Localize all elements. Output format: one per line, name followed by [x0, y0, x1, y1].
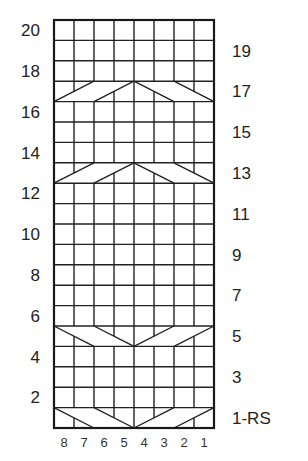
- column-label-8: 8: [60, 435, 67, 450]
- column-labels: 87654321: [60, 435, 207, 450]
- column-label-5: 5: [120, 435, 127, 450]
- row-label-15: 15: [232, 123, 251, 142]
- column-label-7: 7: [80, 435, 87, 450]
- row-label-6: 6: [31, 307, 40, 326]
- row-label-12: 12: [21, 184, 40, 203]
- row-label-14: 14: [21, 144, 40, 163]
- row-label-11: 11: [232, 205, 250, 224]
- column-label-3: 3: [160, 435, 167, 450]
- row-label-5: 5: [232, 327, 241, 346]
- row-label-10: 10: [21, 225, 40, 244]
- row-label-4: 4: [31, 348, 40, 367]
- knitting-chart: 2018161412108642 191715131197531-RS 8765…: [0, 0, 308, 461]
- row-label-19: 19: [232, 42, 251, 61]
- right-row-labels: 191715131197531-RS: [232, 42, 271, 428]
- row-label-2: 2: [31, 388, 40, 407]
- row-label-17: 17: [232, 82, 251, 101]
- column-label-6: 6: [100, 435, 107, 450]
- row-label-1: 1-RS: [232, 409, 271, 428]
- row-label-16: 16: [21, 103, 40, 122]
- chart-grid: [54, 20, 214, 408]
- column-label-4: 4: [140, 435, 147, 450]
- row-label-3: 3: [232, 368, 241, 387]
- row-label-20: 20: [21, 21, 40, 40]
- row-label-13: 13: [232, 164, 251, 183]
- column-label-1: 1: [200, 435, 207, 450]
- row-label-9: 9: [232, 246, 241, 265]
- row-label-18: 18: [21, 62, 40, 81]
- left-row-labels: 2018161412108642: [21, 21, 40, 407]
- row-label-8: 8: [31, 266, 40, 285]
- row-label-7: 7: [232, 286, 241, 305]
- column-label-2: 2: [180, 435, 187, 450]
